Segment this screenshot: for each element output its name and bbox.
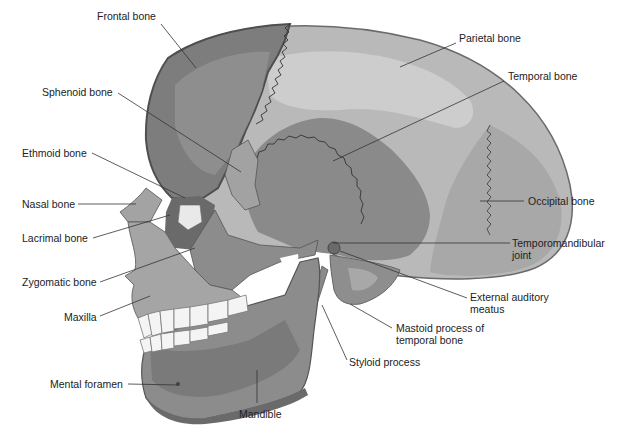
- external-auditory-meatus-shape: [328, 242, 340, 254]
- tooth: [190, 304, 208, 327]
- label-lacrimal-bone: Lacrimal bone: [22, 232, 88, 244]
- tooth: [161, 332, 174, 350]
- label-frontal-bone: Frontal bone: [97, 10, 156, 22]
- label-mental-foramen: Mental foramen: [50, 378, 123, 390]
- label-maxilla: Maxilla: [64, 311, 97, 323]
- label-styloid-process: Styloid process: [349, 356, 420, 368]
- tooth: [174, 330, 190, 346]
- leader-line-styloid-process: [322, 305, 347, 360]
- label-parietal-bone: Parietal bone: [459, 32, 521, 44]
- skull-diagram: [0, 0, 620, 437]
- label-mastoid-process: Mastoid process of temporal bone: [396, 322, 484, 346]
- tooth: [174, 307, 190, 329]
- nasal-bone-shape: [120, 188, 162, 222]
- label-temporomandibular-joint: Temporomandibular joint: [512, 237, 605, 261]
- leader-line-mastoid-process: [350, 304, 392, 328]
- label-sphenoid-bone: Sphenoid bone: [42, 86, 113, 98]
- mental-foramen-shape: [176, 382, 180, 386]
- label-zygomatic-bone: Zygomatic bone: [22, 276, 97, 288]
- tooth: [208, 300, 228, 322]
- tooth: [160, 309, 174, 333]
- label-mandible: Mandible: [239, 408, 282, 420]
- tooth: [150, 334, 162, 352]
- label-ethmoid-bone: Ethmoid bone: [22, 147, 87, 159]
- label-occipital-bone: Occipital bone: [528, 195, 595, 207]
- label-external-auditory-meatus: External auditory meatus: [470, 291, 549, 315]
- label-temporal-bone: Temporal bone: [508, 70, 577, 82]
- tooth: [190, 327, 208, 342]
- label-nasal-bone: Nasal bone: [22, 198, 75, 210]
